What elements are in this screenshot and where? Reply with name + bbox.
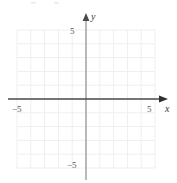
y-axis	[83, 13, 90, 180]
y-axis-arrowhead	[83, 13, 90, 21]
tick-label-x-negative-five: −5	[12, 104, 22, 114]
tick-label-y-negative-five: −5	[67, 160, 77, 170]
scan-artifact-marks	[31, 2, 59, 4]
tick-label-y-positive-five: 5	[70, 26, 75, 36]
tick-label-x-positive-five: 5	[147, 104, 152, 114]
x-axis	[8, 95, 168, 102]
coordinate-plane-svg: y x 5 −5 −5 5	[0, 0, 177, 183]
y-axis-label: y	[90, 11, 96, 22]
x-axis-arrowhead	[159, 95, 168, 102]
x-axis-label: x	[164, 103, 170, 114]
coordinate-plane-figure: y x 5 −5 −5 5	[0, 0, 177, 183]
